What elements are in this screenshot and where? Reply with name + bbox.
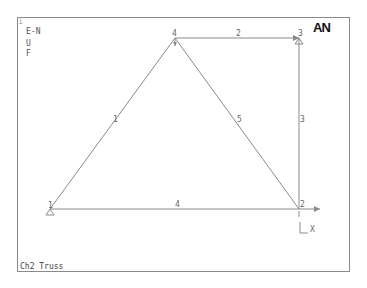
element-label-3: 3 [300, 115, 305, 124]
element-label-2: 2 [236, 29, 241, 38]
element-label-5: 5 [237, 115, 242, 124]
element-label-4: 4 [175, 200, 180, 209]
node-label-2: 2 [300, 200, 305, 209]
node-label-1: 1 [48, 201, 53, 210]
x-axis-arrow-icon [314, 206, 320, 212]
node-label-4: 4 [172, 29, 177, 38]
triad-x-label: X [310, 225, 315, 234]
node-label-3: 3 [298, 29, 303, 38]
element-label-1: 1 [113, 115, 118, 124]
truss-diagram: X 1 2 3 4 1 2 3 4 5 [0, 0, 367, 288]
